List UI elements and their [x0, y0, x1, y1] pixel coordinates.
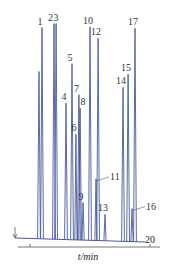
peak-16: [131, 209, 133, 242]
peak-label-3: 3: [54, 12, 59, 23]
peak-label-13: 13: [98, 202, 108, 213]
peak-14: [122, 87, 125, 241]
peak-15: [127, 74, 130, 241]
peak-label-4: 4: [62, 91, 67, 102]
peak-label-10: 10: [83, 15, 93, 26]
peak-label-12: 12: [91, 26, 101, 37]
peak-1: [41, 28, 44, 239]
peak-label-8: 8: [81, 96, 86, 107]
leader-line-16: [133, 207, 146, 211]
peak-label-14: 14: [116, 75, 126, 86]
peaks-layer: [38, 24, 137, 242]
peak-label-17: 17: [128, 16, 138, 27]
peak-label-6: 6: [71, 122, 76, 133]
leader-line-11: [97, 177, 110, 181]
peak-13: [104, 214, 106, 240]
peak-9: [82, 203, 84, 240]
peak-unlabeled: [38, 72, 41, 239]
peak-label-5: 5: [68, 52, 73, 63]
peak-6: [75, 134, 77, 240]
injection-arrow-icon: [13, 227, 17, 238]
chromatogram: 1234567891011121314151617 20 t/min: [0, 0, 175, 267]
peak-label-7: 7: [74, 83, 79, 94]
peak-label-15: 15: [121, 62, 131, 73]
peak-4: [65, 103, 68, 239]
peak-label-11: 11: [110, 171, 120, 182]
x-tick-label-20: 20: [145, 234, 155, 245]
peak-10: [89, 27, 92, 240]
peak-label-1: 1: [38, 16, 43, 27]
peak-label-2: 2: [48, 12, 53, 23]
peak-label-9: 9: [79, 191, 84, 202]
peak-label-16: 16: [146, 201, 156, 212]
x-axis-label: t/min: [78, 251, 99, 262]
peak-3: [55, 24, 58, 240]
